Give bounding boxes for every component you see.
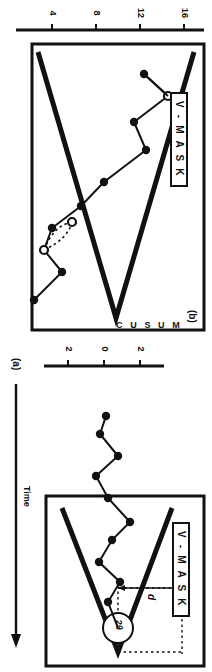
figure-page: V - M A S K (b) 16 12 8 4 C U S U M [0,0,212,672]
panel-b-ticklabel-8: 8 [92,3,102,23]
panel-a-point [102,412,110,420]
panel-a-point [96,430,104,438]
panel-b-point [142,146,150,154]
panel-a-vmask-label-box: V - M A S K [172,522,190,617]
panel-a-point [104,598,112,606]
panel-b-point [58,268,66,276]
panel-a-cusum-line [96,416,130,628]
panel-b-ticklabel-4: 4 [48,3,58,23]
panel-a-ticklabel-lower: 2 [64,339,74,359]
panel-a-rotated-canvas: V - M A S K (a) 2θ d Time 2 0 2 C U S U … [0,336,212,672]
panel-b-seg [144,74,168,96]
panel-a-vmask-label: V - M A S K [176,531,187,608]
panel-a-angle-label: 2θ [114,620,124,630]
panel-a-point [104,494,112,502]
panel-a-point [92,472,100,480]
chart-panel-a: V - M A S K (a) 2θ d Time 2 0 2 C U S U … [0,336,212,672]
panel-a-time-label: Time [22,486,32,507]
panel-b-point [30,296,38,304]
panel-b-open-point [68,218,76,226]
panel-b-ticklabel-12: 12 [136,3,146,23]
panel-a-point [95,558,103,566]
panel-a-point [126,518,134,526]
panel-a-distance-label: d [146,594,157,600]
panel-a-point [114,452,122,460]
panel-a-ticklabel-upper: 2 [136,339,146,359]
panel-b-vmask-label-box: V - M A S K [170,92,188,187]
panel-b-figure: V - M A S K (b) 16 12 8 4 C U S U M [0,0,212,336]
panel-b-open-point [40,246,48,254]
panel-b-tag: (b) [187,310,198,323]
panel-b-point [130,118,138,126]
chart-panel-b: V - M A S K (b) 16 12 8 4 C U S U M [0,0,212,336]
panel-b-point [48,224,56,232]
panel-b-frame [32,44,204,330]
panel-a-figure: V - M A S K (a) 2θ d Time 2 0 2 C U S U … [0,336,212,672]
panel-b-rotated-canvas: V - M A S K (b) 16 12 8 4 C U S U M [0,0,212,336]
panel-b-point [77,202,85,210]
panel-a-ticklabel-zero: 0 [100,339,110,359]
panel-a-tag: (a) [11,358,22,370]
panel-b-vmask-label: V - M A S K [174,101,185,178]
panel-b-ticklabel-16: 16 [180,3,190,23]
panel-b-point [100,178,108,186]
panel-a-axis-title: C U S U M [116,320,182,330]
panel-a-time-arrowhead [11,634,21,648]
panel-a-point [108,536,116,544]
panel-a-point [116,578,124,586]
